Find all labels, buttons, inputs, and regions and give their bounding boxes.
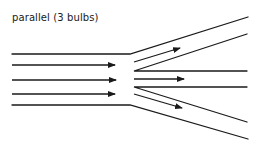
upper-branch-wedge (134, 34, 247, 71)
lower-branch-wedge (134, 87, 247, 122)
outer-wall-top (12, 17, 248, 54)
parallel-circuit-flow-diagram (0, 0, 264, 152)
branch-arrow-lower (134, 94, 182, 108)
diagram-canvas: parallel (3 bulbs) (0, 0, 264, 152)
outer-wall-bottom (12, 105, 248, 139)
flow-arrows (12, 48, 184, 108)
